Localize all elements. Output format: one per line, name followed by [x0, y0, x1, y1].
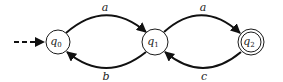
state-q0: q0 [46, 30, 70, 54]
transition-q0-q1: a [66, 1, 146, 33]
transition-label-c: c [201, 70, 207, 82]
automaton-diagram: a b a c q0 q1 [0, 0, 283, 82]
transition-label-a: a [102, 1, 109, 14]
state-q2: q2 [238, 29, 264, 55]
transition-label-a2: a [200, 1, 207, 14]
transition-q1-q2: a [164, 1, 240, 33]
transition-q1-q0: b [67, 52, 146, 82]
state-q2-name: q [243, 35, 250, 48]
state-q0-name: q [50, 35, 57, 48]
transition-q2-q1: c [165, 52, 241, 82]
state-q1: q1 [142, 29, 168, 55]
state-q1-subscript: 1 [154, 41, 158, 49]
state-q2-subscript: 2 [250, 41, 254, 49]
transition-label-b: b [102, 70, 109, 82]
state-q0-subscript: 0 [57, 41, 61, 49]
state-q1-name: q [147, 35, 154, 48]
